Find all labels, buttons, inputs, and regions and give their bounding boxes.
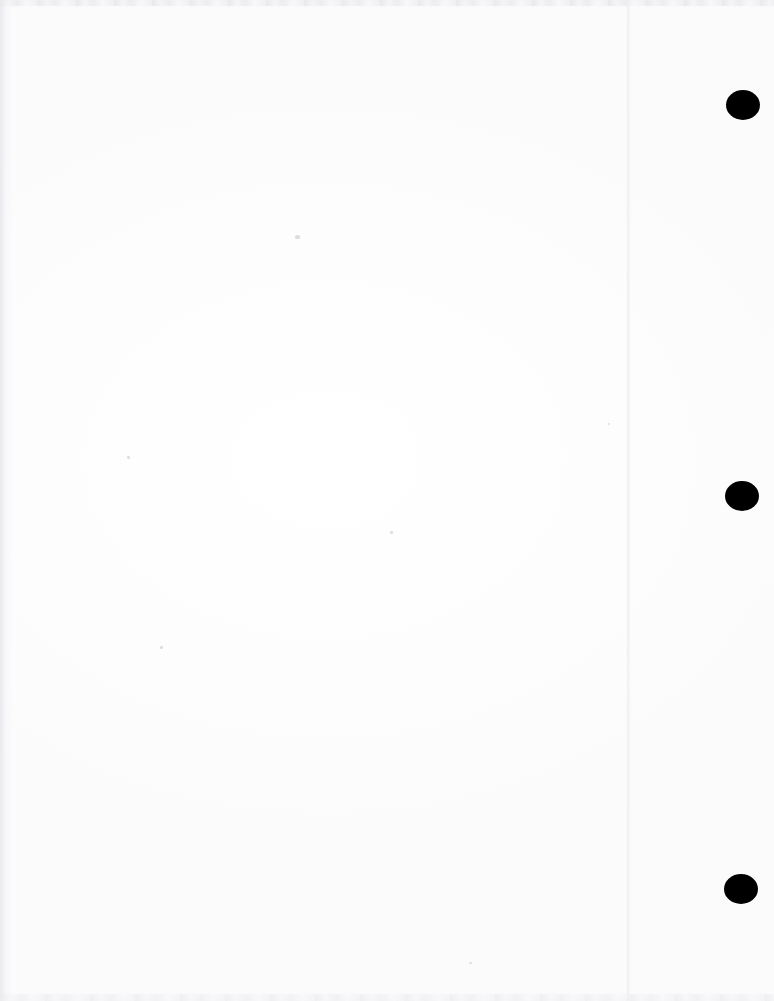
scanned-page [0, 0, 774, 1001]
page-text-content [0, 0, 774, 1001]
